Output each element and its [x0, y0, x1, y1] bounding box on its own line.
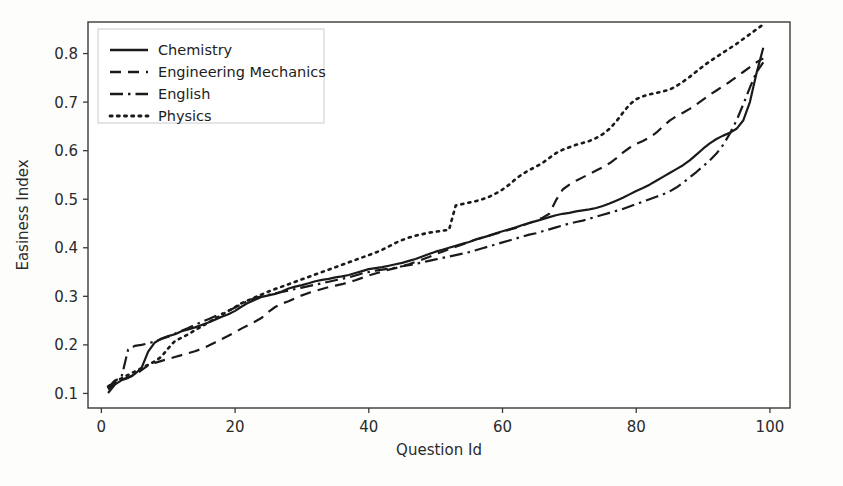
x-tick-label: 40 — [359, 418, 378, 436]
legend-label-engineering-mechanics: Engineering Mechanics — [158, 64, 326, 80]
y-tick-label: 0.8 — [54, 45, 78, 63]
easiness-index-line-chart: 0.10.20.30.40.50.60.70.8 020406080100 Qu… — [0, 0, 843, 486]
y-tick-label: 0.6 — [54, 142, 78, 160]
x-tick-label: 100 — [756, 418, 785, 436]
x-tick-label: 20 — [226, 418, 245, 436]
y-tick-label: 0.5 — [54, 191, 78, 209]
y-tick-label: 0.1 — [54, 385, 78, 403]
y-tick-label: 0.4 — [54, 239, 78, 257]
legend-label-chemistry: Chemistry — [158, 42, 233, 58]
legend: ChemistryEngineering MechanicsEnglishPhy… — [98, 29, 326, 124]
y-tick-label: 0.3 — [54, 288, 78, 306]
legend-label-physics: Physics — [158, 108, 212, 124]
legend-label-english: English — [158, 86, 210, 102]
x-tick-label: 0 — [97, 418, 107, 436]
y-axis-title: Easiness Index — [14, 159, 32, 270]
x-axis-title: Question Id — [396, 441, 482, 459]
x-tick-label: 60 — [493, 418, 512, 436]
y-tick-label: 0.7 — [54, 94, 78, 112]
x-tick-label: 80 — [627, 418, 646, 436]
y-tick-label: 0.2 — [54, 336, 78, 354]
